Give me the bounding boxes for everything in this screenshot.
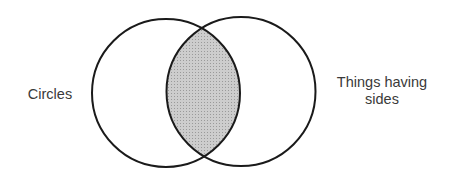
label-right-set-line1: Things having <box>322 74 442 91</box>
label-right-set-line2: sides <box>322 91 442 108</box>
label-left-set: Circles <box>20 86 80 103</box>
venn-diagram: Circles Things having sides <box>0 0 449 174</box>
